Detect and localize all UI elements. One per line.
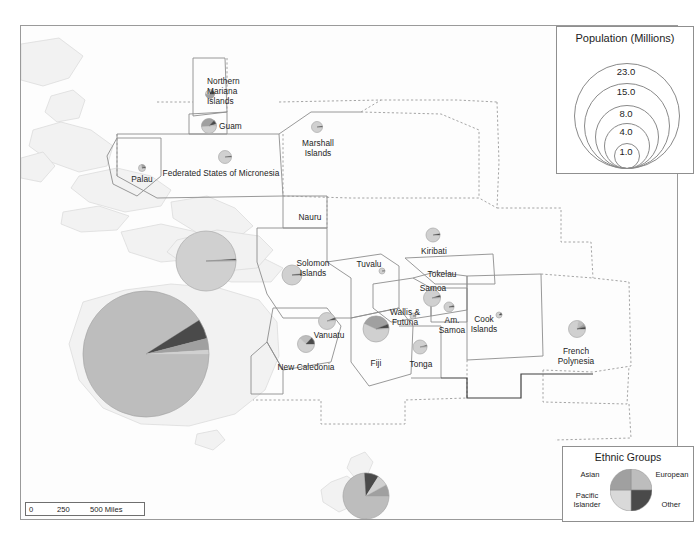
- pie-symbol-marshall-islands[interactable]: [312, 121, 323, 132]
- label-marshall-islands: Marshall Islands: [287, 138, 349, 158]
- pie-symbol-micronesia[interactable]: [219, 150, 232, 163]
- ethnic-label-pacific-islander: Pacific Islander: [564, 491, 610, 509]
- label-tuvalu: Tuvalu: [347, 259, 391, 269]
- ethnic-label-other: Other: [651, 500, 691, 509]
- label-tokelau: Tokelau: [419, 269, 465, 279]
- label-wallis-and-futuna: Wallis & Futuna: [379, 307, 431, 327]
- label-solomon-islands: Solomon Islands: [285, 258, 341, 278]
- population-legend-bubbles: 23.0 15.0 8.0 4.0 1.0: [563, 51, 689, 169]
- pie-symbol-kiribati[interactable]: [426, 228, 440, 242]
- label-nauru: Nauru: [289, 212, 331, 222]
- label-kiribati: Kiribati: [411, 246, 457, 256]
- pie-symbol-palau[interactable]: [139, 165, 146, 172]
- pie-symbol-vanuatu[interactable]: [319, 312, 336, 329]
- pie-symbol-new-zealand[interactable]: [343, 473, 389, 519]
- scale-bar: 0 250 500 Miles: [25, 502, 145, 516]
- scale-bar-zero: 0: [29, 505, 33, 514]
- pop-value-15: 15.0: [596, 86, 656, 97]
- pie-symbol-tonga[interactable]: [413, 340, 427, 354]
- pop-value-4: 4.0: [596, 126, 656, 137]
- label-fiji: Fiji: [361, 358, 391, 368]
- label-vanuatu: Vanuatu: [305, 330, 353, 340]
- scale-bar-mid: 250: [57, 505, 70, 514]
- label-northern-mariana-islands: Northern Mariana Islands: [207, 76, 269, 106]
- population-legend-title: Population (Millions): [557, 27, 693, 44]
- label-new-caledonia: New Caledonia: [267, 362, 345, 372]
- label-tonga: Tonga: [403, 359, 439, 369]
- pie-symbol-french-polynesia[interactable]: [569, 321, 586, 338]
- pie-symbol-australia[interactable]: [83, 291, 209, 417]
- ethnic-legend-title: Ethnic Groups: [563, 447, 693, 463]
- pie-slice-pacific-islander: [202, 126, 217, 133]
- pie-symbol-american-samoa[interactable]: [444, 302, 454, 312]
- ethnic-groups-legend: Ethnic Groups Asian European Pacific Isl…: [562, 446, 694, 522]
- label-samoa: Samoa: [412, 283, 454, 293]
- pop-value-23: 23.0: [596, 66, 656, 77]
- label-cook-islands: Cook Islands: [459, 314, 509, 334]
- label-guam: Guam: [219, 121, 259, 131]
- population-legend: Population (Millions) 23.0 15.0 8.0 4.0 …: [556, 26, 694, 174]
- pop-value-1: 1.0: [596, 146, 656, 157]
- ethnic-label-european: European: [649, 470, 695, 479]
- pop-value-8: 8.0: [596, 108, 656, 119]
- ethnic-label-asian: Asian: [569, 470, 611, 479]
- pie-symbol-guam[interactable]: [202, 118, 217, 133]
- scale-bar-max: 500 Miles: [90, 505, 123, 514]
- pie-symbol-papua-new-guinea[interactable]: [176, 231, 236, 291]
- label-french-polynesia: French Polynesia: [545, 346, 607, 366]
- label-federated-states-of-micronesia: Federated States of Micronesia: [151, 168, 291, 178]
- ethnic-legend-pie: [610, 469, 652, 511]
